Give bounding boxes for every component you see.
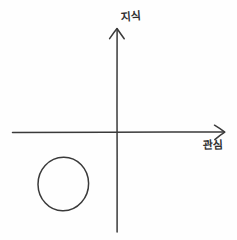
x-axis-group bbox=[13, 125, 225, 139]
circle-shape bbox=[38, 157, 89, 211]
x-axis-label: 관심 bbox=[203, 140, 223, 152]
axis-diagram-canvas bbox=[0, 0, 237, 240]
circle-shape-group bbox=[38, 157, 89, 211]
y-axis-label: 지식 bbox=[121, 10, 141, 22]
y-axis-group bbox=[110, 29, 125, 233]
